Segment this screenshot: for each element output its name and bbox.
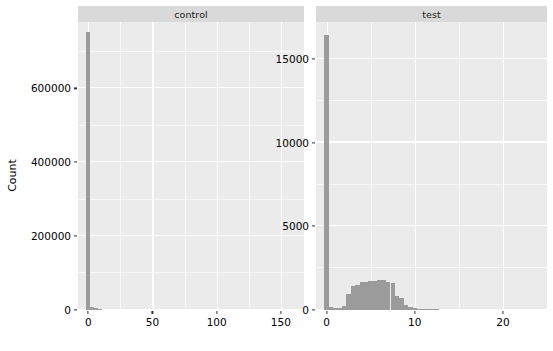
histogram-bar xyxy=(435,309,439,310)
gridline-major-horizontal xyxy=(316,58,547,59)
gridline-minor-horizontal xyxy=(316,100,547,101)
facet-strip-label-test: test xyxy=(316,6,547,22)
x-axis-tick-mark xyxy=(326,311,327,314)
gridline-minor-horizontal xyxy=(316,267,547,268)
y-axis-tick-mark xyxy=(312,58,315,59)
gridline-minor-horizontal xyxy=(78,199,304,200)
histogram-bar xyxy=(86,32,90,310)
x-axis-tick-label: 20 xyxy=(496,316,509,328)
facet-control: control xyxy=(78,6,304,310)
gridline-major-vertical xyxy=(217,22,218,310)
x-axis-tick-mark xyxy=(414,311,415,314)
gridline-minor-vertical xyxy=(459,22,460,310)
gridline-major-horizontal xyxy=(78,87,304,88)
y-axis-tick-mark xyxy=(312,142,315,143)
gridline-minor-horizontal xyxy=(78,272,304,273)
gridline-major-vertical xyxy=(152,22,153,310)
x-axis-tick-label: 0 xyxy=(85,316,92,328)
plot-panel-test xyxy=(316,22,547,310)
gridline-minor-horizontal xyxy=(78,125,304,126)
gridline-major-horizontal xyxy=(78,235,304,236)
x-axis-tick-label: 10 xyxy=(408,316,421,328)
plot-panel-control xyxy=(78,22,304,310)
x-axis-tick-mark xyxy=(502,311,503,314)
y-axis-tick-mark xyxy=(312,226,315,227)
y-axis-tick-mark xyxy=(74,88,77,89)
histogram-bar xyxy=(98,309,102,310)
histogram-figure: Count controltest 0200000400000600000050… xyxy=(0,0,553,351)
gridline-major-horizontal xyxy=(316,141,547,142)
gridline-minor-vertical xyxy=(371,22,372,310)
y-axis-tick-label: 600000 xyxy=(31,82,71,94)
y-axis-tick-mark xyxy=(74,236,77,237)
y-axis-tick-label: 10000 xyxy=(276,137,309,149)
y-axis-title: Count xyxy=(2,0,22,351)
facet-strip-label-control: control xyxy=(78,6,304,22)
x-axis-tick-label: 100 xyxy=(207,316,227,328)
y-axis-tick-mark xyxy=(74,162,77,163)
y-axis-tick-mark xyxy=(74,309,77,310)
y-axis-tick-mark xyxy=(312,309,315,310)
gridline-minor-vertical xyxy=(185,22,186,310)
x-axis-tick-label: 50 xyxy=(146,316,159,328)
gridline-major-horizontal xyxy=(316,225,547,226)
y-axis-tick-label: 400000 xyxy=(31,156,71,168)
gridline-major-horizontal xyxy=(78,161,304,162)
histogram-bar xyxy=(324,35,328,310)
x-axis-tick-mark xyxy=(216,311,217,314)
y-axis-tick-label: 0 xyxy=(64,304,71,316)
gridline-minor-horizontal xyxy=(316,184,547,185)
y-axis-tick-label: 5000 xyxy=(282,220,309,232)
y-axis-tick-label: 0 xyxy=(302,304,309,316)
gridline-minor-vertical xyxy=(249,22,250,310)
facet-test: test xyxy=(316,6,547,310)
gridline-major-horizontal xyxy=(78,309,304,310)
x-axis-tick-mark xyxy=(280,311,281,314)
gridline-major-vertical xyxy=(415,22,416,310)
gridline-minor-horizontal xyxy=(78,51,304,52)
x-axis-tick-mark xyxy=(152,311,153,314)
x-axis-tick-label: 150 xyxy=(271,316,291,328)
x-axis-tick-mark xyxy=(88,311,89,314)
x-axis-tick-label: 0 xyxy=(323,316,330,328)
y-axis-tick-label: 15000 xyxy=(276,53,309,65)
y-axis-tick-label: 200000 xyxy=(31,230,71,242)
gridline-minor-vertical xyxy=(120,22,121,310)
gridline-major-vertical xyxy=(281,22,282,310)
gridline-major-vertical xyxy=(503,22,504,310)
